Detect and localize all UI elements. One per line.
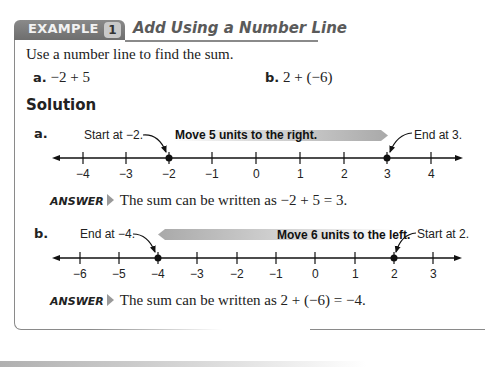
tick-label: −4 bbox=[151, 267, 165, 281]
tick-label: 1 bbox=[297, 167, 304, 181]
tick-label: 3 bbox=[430, 267, 437, 281]
end-point-a bbox=[384, 155, 391, 162]
tick-label: −6 bbox=[73, 267, 87, 281]
answer-keyword: ANSWER bbox=[50, 295, 104, 308]
page-bottom-band bbox=[0, 361, 489, 367]
answer-b-text: The sum can be written as 2 + (−6) = −4. bbox=[120, 292, 366, 308]
answer-b: ANSWERThe sum can be written as 2 + (−6)… bbox=[50, 292, 366, 309]
answer-triangle-icon bbox=[107, 194, 114, 206]
answer-a-text: The sum can be written as −2 + 5 = 3. bbox=[120, 192, 347, 208]
tick-label: 0 bbox=[312, 267, 319, 281]
tick-label: 4 bbox=[428, 167, 435, 181]
start-point-b bbox=[391, 255, 398, 262]
start-point-a bbox=[166, 155, 173, 162]
tick-label: 2 bbox=[341, 167, 348, 181]
end-note-b: End at −4. bbox=[80, 227, 135, 241]
start-note-b: Start at 2. bbox=[417, 227, 469, 241]
start-note-a: Start at −2. bbox=[84, 128, 143, 142]
end-point-b bbox=[155, 255, 162, 262]
move-note-a: Move 5 units to the right. bbox=[175, 128, 317, 142]
end-note-a: End at 3. bbox=[414, 128, 462, 142]
tick-label: −2 bbox=[162, 167, 176, 181]
tick-label: −3 bbox=[190, 267, 204, 281]
answer-a: ANSWERThe sum can be written as −2 + 5 =… bbox=[50, 192, 347, 209]
tick-label: −3 bbox=[119, 167, 133, 181]
tick-label: −4 bbox=[76, 167, 90, 181]
tick-label: 2 bbox=[391, 267, 398, 281]
part-b-label: b. bbox=[34, 226, 48, 241]
number-lines-graphic bbox=[0, 0, 489, 367]
answer-keyword: ANSWER bbox=[50, 195, 104, 208]
tick-label: −1 bbox=[205, 167, 219, 181]
tick-label: −2 bbox=[230, 267, 244, 281]
tick-label: −1 bbox=[269, 267, 283, 281]
tick-label: 1 bbox=[352, 267, 359, 281]
tick-label: −5 bbox=[112, 267, 126, 281]
answer-triangle-icon bbox=[107, 294, 114, 306]
move-note-b: Move 6 units to the left. bbox=[277, 228, 410, 242]
tick-label: 0 bbox=[253, 167, 260, 181]
part-a-label: a. bbox=[34, 126, 48, 141]
tick-label: 3 bbox=[384, 167, 391, 181]
